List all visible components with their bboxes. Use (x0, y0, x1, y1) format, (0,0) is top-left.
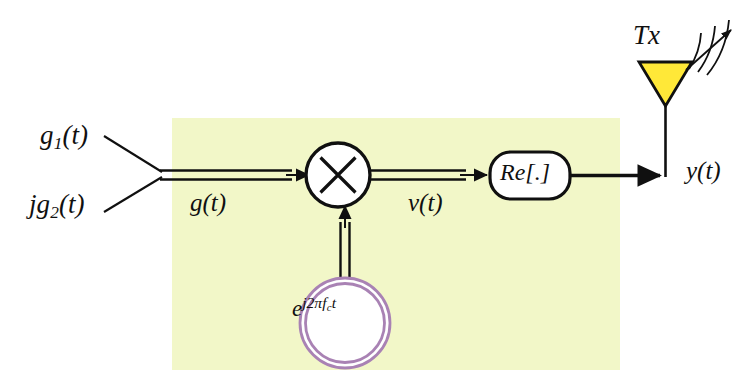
diagram-canvas: g1(t) jg2(t) g(t) v(t) y(t) Tx Re[.] ej2… (0, 0, 747, 386)
input-label-g1: g1(t) (40, 122, 88, 152)
label-text: jg (29, 189, 50, 219)
signal-label-y: y(t) (686, 158, 721, 183)
input-label-jg2: jg2(t) (29, 191, 84, 221)
signal-label-v: v(t) (408, 190, 443, 215)
block-diagram-svg (0, 0, 747, 386)
input-line-jg2 (104, 177, 162, 212)
antenna-label-tx: Tx (633, 22, 660, 49)
radiation-arrow-icon (686, 30, 731, 70)
oscillator-base: e (292, 296, 302, 321)
real-part-block-label: Re[.] (500, 160, 550, 184)
radiation-waves-icon (689, 20, 729, 75)
oscillator-label: ej2πfct (292, 295, 336, 320)
label-text: g (40, 120, 54, 150)
antenna-triangle-icon (639, 62, 692, 106)
oscillator-exponent: j2πf (302, 294, 326, 311)
signal-label-g: g(t) (190, 190, 226, 215)
input-line-g1 (104, 136, 162, 172)
